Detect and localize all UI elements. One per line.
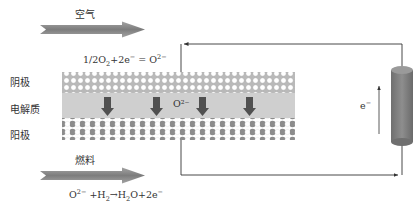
eq-part: +2e (110, 54, 130, 65)
eq-sup: − (158, 188, 163, 196)
anode-reaction-equation: O2− +H2→H2O+2e− (69, 188, 163, 203)
fuel-cell-diagram (0, 0, 417, 209)
fuel-flow-arrow (40, 168, 145, 184)
eq-part: →H (110, 189, 126, 200)
air-label: 空气 (75, 6, 95, 21)
electrolyte-label: 电解质 (10, 101, 40, 116)
fuel-label: 燃料 (75, 152, 95, 167)
eq-sup: 2− (77, 188, 87, 196)
electron-label: e− (360, 99, 371, 111)
eq-part: = O (135, 54, 157, 65)
anode-layer (62, 118, 295, 140)
eq-part: 1/2O (83, 54, 106, 65)
cathode-reaction-equation: 1/2O2+2e− = O2− (83, 53, 167, 68)
air-flow-arrow (40, 22, 145, 38)
eq-part: O+2e (130, 189, 157, 200)
cathode-label: 阴极 (10, 74, 30, 89)
eq-part: +H (86, 189, 105, 200)
electron-charge: − (366, 99, 371, 107)
anode-label: 阳极 (10, 127, 30, 142)
cathode-layer (62, 72, 295, 93)
oxide-ion-label: O²⁻ (173, 98, 190, 109)
eq-sup: 2− (157, 53, 167, 61)
eq-part: O (69, 189, 77, 200)
external-load-cylinder (391, 66, 413, 146)
